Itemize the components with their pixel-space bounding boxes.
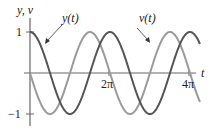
x-tick-label-2pi: 2π xyxy=(101,77,113,91)
y-tick-label-1: 1 xyxy=(16,25,22,39)
x-axis-label: t xyxy=(201,66,205,80)
y-tick-label-neg1: −1 xyxy=(8,107,21,121)
annotation-v-arrow xyxy=(137,28,148,40)
y-axis-label: y, v xyxy=(16,3,34,17)
chart-canvas: y, v t 1 −1 2π 4π y(t) v(t) xyxy=(0,0,212,135)
annotation-y-arrow xyxy=(47,25,62,41)
annotation-y: y(t) xyxy=(61,11,79,25)
annotation-v: v(t) xyxy=(139,11,156,25)
x-tick-label-4pi: 4π xyxy=(182,77,194,91)
